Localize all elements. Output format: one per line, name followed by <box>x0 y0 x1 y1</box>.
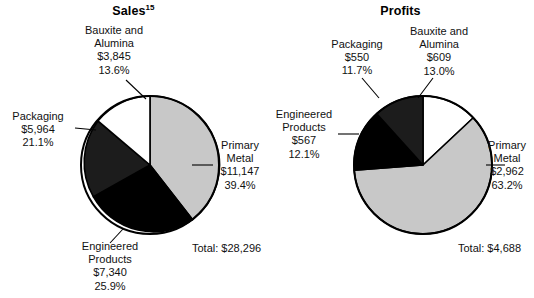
slice-label-profits-bauxite-alumina: Bauxite and Alumina $609 13.0% <box>389 25 489 78</box>
slice-label-name-line1: Bauxite and <box>389 25 489 38</box>
total-label: Total: <box>458 242 484 254</box>
slice-label-name-line2: Alumina <box>389 38 489 51</box>
chart-panel-sales: Sales15 Bauxite and Alumina $3,845 13.6% <box>0 0 267 298</box>
chart-title-profits: Profits <box>267 4 534 18</box>
chart-title-sales-superscript: 15 <box>146 3 155 12</box>
slice-label-name-line1: Engineered <box>52 240 168 253</box>
slice-label-percent: 12.1% <box>270 148 338 161</box>
slice-label-value: $7,340 <box>52 266 168 279</box>
slice-label-value: $609 <box>389 51 489 64</box>
chart-title-profits-text: Profits <box>380 4 420 18</box>
slice-label-profits-primary-metal: Primary Metal $2,962 63.2% <box>480 139 534 192</box>
slice-label-value: $567 <box>270 134 338 147</box>
slice-label-value: $3,845 <box>58 50 170 63</box>
pie-chart-sales <box>79 94 221 236</box>
slice-label-percent: 63.2% <box>480 179 534 192</box>
chart-title-sales: Sales15 <box>0 4 267 18</box>
slice-label-profits-engineered-products: Engineered Products $567 12.1% <box>270 108 338 161</box>
chart-title-sales-text: Sales <box>112 4 145 18</box>
slice-label-name-line1: Primary <box>480 139 534 152</box>
slice-label-sales-primary-metal: Primary Metal $11,147 39.4% <box>213 139 267 192</box>
slice-label-name-line1: Packaging <box>315 38 399 51</box>
chart-total-sales: Total: $28,296 <box>192 242 261 255</box>
chart-total-profits: Total: $4,688 <box>458 242 521 255</box>
slice-label-name-line2: Metal <box>213 152 267 165</box>
chart-panel-profits: Profits Packaging $550 11.7% Bauxite and <box>267 0 534 298</box>
slice-label-name-line1: Bauxite and <box>58 24 170 37</box>
pie-sales-svg <box>79 94 221 236</box>
slice-label-value: $11,147 <box>213 165 267 178</box>
slice-label-name-line2: Products <box>52 253 168 266</box>
total-value: $28,296 <box>221 242 261 254</box>
slice-label-percent: 11.7% <box>315 64 399 77</box>
slice-label-name-line2: Alumina <box>58 37 170 50</box>
slice-label-name-line2: Products <box>270 121 338 134</box>
slice-label-value: $5,964 <box>0 123 76 136</box>
slice-label-value: $2,962 <box>480 165 534 178</box>
slice-label-percent: 39.4% <box>213 179 267 192</box>
slice-label-percent: 25.9% <box>52 280 168 293</box>
slice-label-name-line1: Primary <box>213 139 267 152</box>
total-label: Total: <box>192 242 218 254</box>
slice-label-profits-packaging: Packaging $550 11.7% <box>315 38 399 78</box>
slice-label-percent: 13.0% <box>389 65 489 78</box>
pie-chart-profits <box>352 94 494 236</box>
total-value: $4,688 <box>487 242 521 254</box>
slice-label-sales-engineered-products: Engineered Products $7,340 25.9% <box>52 240 168 293</box>
slice-label-percent: 21.1% <box>0 136 76 149</box>
slice-label-name-line2: Metal <box>480 152 534 165</box>
slice-label-name-line1: Packaging <box>0 110 76 123</box>
slice-label-sales-bauxite-alumina: Bauxite and Alumina $3,845 13.6% <box>58 24 170 77</box>
pie-profits-svg <box>352 94 494 236</box>
slice-label-name-line1: Engineered <box>270 108 338 121</box>
slice-label-value: $550 <box>315 51 399 64</box>
slice-label-percent: 13.6% <box>58 64 170 77</box>
slice-label-sales-packaging: Packaging $5,964 21.1% <box>0 110 76 150</box>
